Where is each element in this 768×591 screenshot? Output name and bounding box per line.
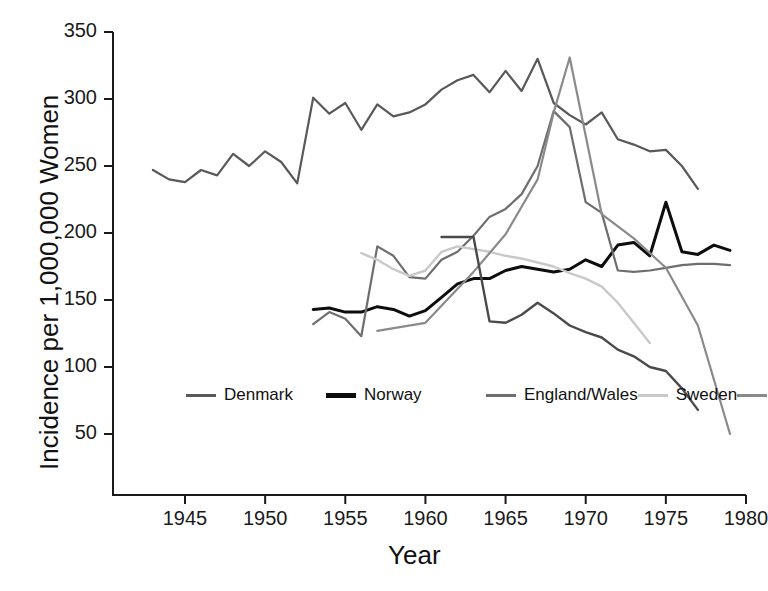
legend-swatch-icon xyxy=(186,394,216,397)
incidence-line-chart: Incidence per 1,000,000 Women Year 35030… xyxy=(0,0,768,591)
x-tick-label: 1975 xyxy=(631,507,701,530)
plot-area xyxy=(0,0,768,591)
x-tick-label: 1965 xyxy=(471,507,541,530)
y-tick-label: 250 xyxy=(37,153,97,176)
x-tick-label: 1970 xyxy=(551,507,621,530)
y-axis-title: Incidence per 1,000,000 Women xyxy=(34,95,65,470)
y-tick-label: 200 xyxy=(37,220,97,243)
legend-label: Norway xyxy=(364,385,422,405)
legend-label: England/Wales xyxy=(524,385,638,405)
x-tick-label: 1980 xyxy=(711,507,768,530)
series-line-denmark xyxy=(153,59,698,189)
series-line-england-wales xyxy=(313,111,730,336)
series-lines xyxy=(153,58,730,435)
legend-swatch-icon xyxy=(486,394,516,397)
legend-label: Sweden xyxy=(676,385,737,405)
series-line-iceland xyxy=(377,58,730,435)
x-tick-label: 1945 xyxy=(150,507,220,530)
legend-swatch-icon xyxy=(737,394,767,397)
legend-entry: Iceland xyxy=(737,385,768,405)
x-tick-label: 1955 xyxy=(310,507,380,530)
legend-entry: Sweden xyxy=(638,385,737,405)
y-tick-label: 50 xyxy=(37,421,97,444)
chart-legend: DenmarkNorwayEngland/WalesSwedenIcelandF… xyxy=(186,382,506,408)
legend-swatch-icon xyxy=(638,394,668,397)
x-tick-label: 1950 xyxy=(230,507,300,530)
x-axis-title: Year xyxy=(388,540,441,571)
legend-entry: England/Wales xyxy=(486,385,638,405)
legend-entry: Norway xyxy=(326,385,486,405)
legend-swatch-icon xyxy=(326,393,356,398)
axis-lines xyxy=(104,32,746,504)
y-tick-label: 300 xyxy=(37,86,97,109)
y-tick-label: 100 xyxy=(37,354,97,377)
x-tick-label: 1960 xyxy=(390,507,460,530)
legend-label: Denmark xyxy=(224,385,293,405)
legend-entry: Denmark xyxy=(186,385,326,405)
y-tick-label: 150 xyxy=(37,287,97,310)
y-tick-label: 350 xyxy=(37,19,97,42)
